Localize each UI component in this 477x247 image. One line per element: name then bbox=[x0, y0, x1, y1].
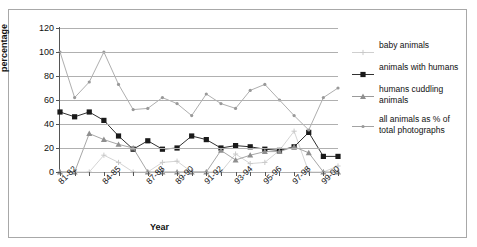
data-point-marker bbox=[86, 131, 92, 136]
legend-item[interactable]: animals with humans bbox=[352, 62, 464, 75]
y-tick-mark bbox=[56, 148, 60, 149]
data-point-marker bbox=[72, 114, 77, 119]
legend-marker-square-icon bbox=[352, 65, 374, 74]
series-baby-animals bbox=[57, 129, 340, 175]
data-point-marker bbox=[360, 72, 365, 77]
y-tick-label: 120 bbox=[28, 24, 54, 33]
line-chart: 020406080100120 81-8284-8587-8889-9091-9… bbox=[0, 0, 477, 247]
data-point-marker bbox=[306, 150, 312, 155]
series-all-animals-as-of-total-photographs bbox=[58, 50, 339, 131]
data-point-marker bbox=[360, 50, 365, 55]
legend-label: baby animals bbox=[379, 40, 464, 51]
gridline bbox=[60, 148, 338, 149]
x-tick-mark bbox=[133, 172, 134, 176]
series-animals-with-humans bbox=[57, 109, 340, 159]
data-point-marker bbox=[73, 96, 76, 99]
series-line bbox=[60, 134, 338, 172]
x-tick-mark bbox=[89, 172, 90, 176]
legend-label: humans cuddling animals bbox=[379, 84, 464, 105]
y-tick-label: 20 bbox=[28, 144, 54, 153]
series-line bbox=[60, 131, 338, 172]
legend-item[interactable]: baby animals bbox=[352, 40, 464, 53]
y-tick-mark bbox=[56, 28, 60, 29]
plot-area bbox=[60, 28, 338, 172]
data-point-marker bbox=[321, 154, 326, 159]
data-point-marker bbox=[219, 102, 222, 105]
gridline bbox=[60, 52, 338, 53]
data-point-marker bbox=[88, 80, 91, 83]
data-point-marker bbox=[249, 89, 252, 92]
data-point-marker bbox=[146, 107, 149, 110]
data-point-marker bbox=[204, 137, 209, 142]
data-point-marker bbox=[101, 118, 106, 123]
data-point-marker bbox=[190, 114, 193, 117]
legend-item[interactable]: all animals as % of total photographs bbox=[352, 114, 464, 135]
data-point-marker bbox=[117, 83, 120, 86]
data-point-marker bbox=[234, 107, 237, 110]
legend-marker-dot-icon bbox=[352, 117, 374, 126]
data-point-marker bbox=[335, 154, 340, 159]
gridline bbox=[60, 100, 338, 101]
series-humans-cuddling-animals bbox=[57, 131, 341, 175]
y-tick-label: 40 bbox=[28, 120, 54, 129]
gridline bbox=[60, 28, 338, 29]
y-tick-label: 60 bbox=[28, 96, 54, 105]
chart-legend: baby animalsanimals with humanshumans cu… bbox=[352, 40, 464, 144]
legend-marker-triangle-icon bbox=[352, 87, 374, 96]
data-point-marker bbox=[361, 125, 364, 128]
data-point-marker bbox=[161, 96, 164, 99]
data-point-marker bbox=[175, 102, 178, 105]
data-point-marker bbox=[87, 109, 92, 114]
data-point-marker bbox=[132, 108, 135, 111]
data-point-marker bbox=[322, 96, 325, 99]
y-tick-label: 100 bbox=[28, 48, 54, 57]
data-point-marker bbox=[263, 83, 266, 86]
y-tick-mark bbox=[56, 124, 60, 125]
data-point-marker bbox=[101, 137, 107, 142]
gridline bbox=[60, 124, 338, 125]
data-point-marker bbox=[145, 138, 150, 143]
y-tick-label: 0 bbox=[28, 168, 54, 177]
x-axis-title: Year bbox=[150, 222, 169, 232]
y-tick-mark bbox=[56, 100, 60, 101]
legend-marker-plus-icon bbox=[352, 43, 374, 52]
data-point-marker bbox=[205, 92, 208, 95]
y-axis-title: percentage bbox=[0, 24, 9, 72]
gridline bbox=[60, 76, 338, 77]
y-tick-mark bbox=[56, 76, 60, 77]
data-point-marker bbox=[116, 133, 121, 138]
legend-label: all animals as % of total photographs bbox=[379, 114, 464, 135]
y-tick-label: 80 bbox=[28, 72, 54, 81]
y-tick-mark bbox=[56, 52, 60, 53]
legend-label: animals with humans bbox=[379, 62, 464, 73]
data-point-marker bbox=[307, 128, 310, 131]
data-point-marker bbox=[57, 109, 62, 114]
data-point-marker bbox=[189, 133, 194, 138]
legend-item[interactable]: humans cuddling animals bbox=[352, 84, 464, 105]
data-point-marker bbox=[336, 86, 339, 89]
data-point-marker bbox=[293, 114, 296, 117]
